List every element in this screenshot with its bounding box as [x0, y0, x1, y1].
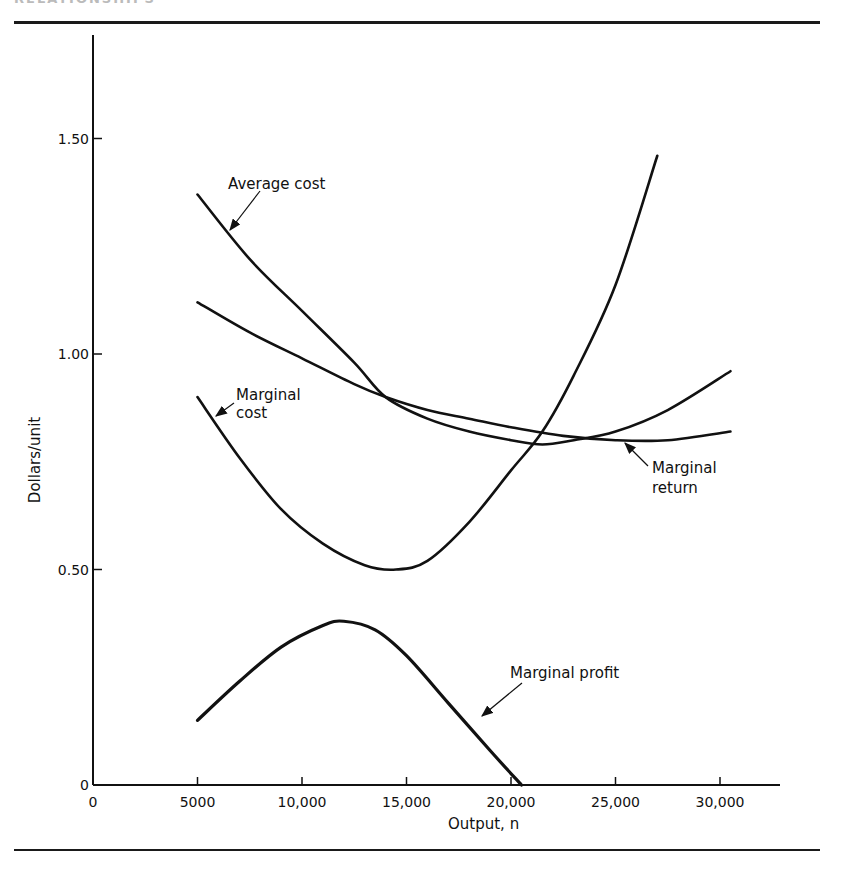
arrow-marginal-profit — [482, 683, 522, 716]
x-tick-label: 20,000 — [487, 794, 536, 810]
label-marginal-return-1: Marginal — [652, 459, 717, 477]
x-tick-label: 30,000 — [696, 794, 745, 810]
cost-revenue-chart: 0500010,00015,00020,00025,00030,00000.50… — [0, 0, 844, 869]
curve-marginal-cost — [198, 156, 658, 570]
y-tick-label: 1.50 — [58, 131, 89, 147]
curve-marginal-return — [198, 302, 731, 441]
arrow-marginal-return — [625, 443, 648, 466]
x-tick-label: 10,000 — [278, 794, 327, 810]
label-marginal-profit: Marginal profit — [510, 664, 619, 682]
y-tick-label: 0.50 — [58, 562, 89, 578]
arrow-average-cost — [230, 191, 260, 230]
x-tick-label: 25,000 — [591, 794, 640, 810]
x-tick-label: 5000 — [180, 794, 216, 810]
x-tick-label: 15,000 — [382, 794, 431, 810]
x-tick-label: 0 — [89, 794, 98, 810]
label-average-cost: Average cost — [228, 175, 326, 193]
y-tick-label: 0 — [80, 777, 89, 793]
y-tick-label: 1.00 — [58, 346, 89, 362]
ticks: 0500010,00015,00020,00025,00030,00000.50… — [58, 131, 745, 811]
annotations: Average cost Marginal cost Marginal retu… — [216, 175, 717, 716]
label-marginal-cost-2: cost — [236, 404, 267, 422]
axes — [93, 35, 780, 785]
curves — [198, 156, 731, 785]
label-marginal-return-2: return — [652, 479, 698, 497]
label-marginal-cost-1: Marginal — [236, 386, 301, 404]
curve-average-cost — [198, 195, 731, 445]
x-axis-label: Output, n — [448, 815, 519, 833]
y-axis-label: Dollars/unit — [26, 417, 44, 503]
curve-marginal-profit — [198, 621, 522, 785]
arrow-marginal-cost — [216, 403, 234, 416]
